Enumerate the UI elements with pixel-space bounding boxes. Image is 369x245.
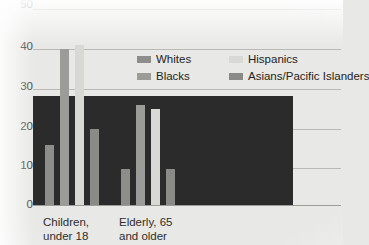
axis-zero-line	[33, 205, 341, 206]
bar-children-asians	[90, 129, 99, 205]
y-tick-10: 10	[0, 160, 33, 171]
y-tick-50: 50	[0, 0, 33, 10]
y-tick-0: 0	[0, 199, 33, 210]
legend-item-blacks: Blacks	[137, 70, 229, 82]
legend-swatch-whites	[137, 56, 151, 63]
y-tick-20: 20	[0, 121, 33, 132]
bar-elderly-asians	[166, 169, 175, 205]
legend-item-asians: Asians/Pacific Islanders	[229, 70, 337, 82]
legend-label-blacks: Blacks	[156, 70, 190, 82]
legend-label-asians: Asians/Pacific Islanders	[248, 70, 369, 82]
legend-item-hispanics: Hispanics	[229, 53, 337, 65]
bar-group-children	[45, 5, 105, 205]
bar-elderly-blacks	[136, 105, 145, 205]
x-category-label-elderly: Elderly, 65 and older	[119, 215, 172, 243]
bar-elderly-whites	[121, 169, 130, 205]
bar-group-elderly	[121, 5, 181, 205]
legend-swatch-asians	[229, 73, 243, 80]
plot-area: Children, under 18 Elderly, 65 and older	[33, 5, 341, 205]
legend-label-whites: Whites	[156, 53, 191, 65]
y-tick-30: 30	[0, 81, 33, 92]
legend-item-whites: Whites	[137, 53, 229, 65]
y-tick-40: 40	[0, 41, 33, 52]
bar-children-whites	[45, 145, 54, 205]
legend-swatch-blacks	[137, 73, 151, 80]
x-category-label-children: Children, under 18	[43, 215, 89, 243]
bar-children-blacks	[60, 49, 69, 205]
legend-swatch-hispanics	[229, 56, 243, 63]
bar-children-hispanics	[75, 45, 84, 205]
legend-label-hispanics: Hispanics	[248, 53, 298, 65]
legend: Whites Hispanics Blacks Asians/Pacific I…	[137, 53, 337, 82]
bar-elderly-hispanics	[151, 109, 160, 205]
